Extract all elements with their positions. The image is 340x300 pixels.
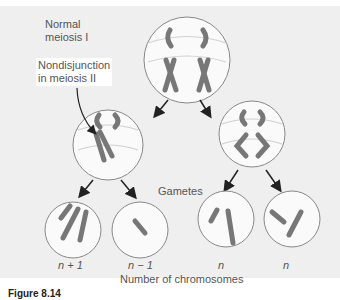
normal-daughter-cell bbox=[219, 101, 285, 167]
label-line: Normal bbox=[45, 18, 88, 31]
gamete-n-2 bbox=[264, 191, 320, 247]
arrow-icon bbox=[121, 180, 135, 197]
gamete-count-label: n + 1 bbox=[58, 259, 83, 272]
axis-title: Number of chromosomes bbox=[120, 273, 244, 286]
gamete-count-label: n bbox=[218, 259, 224, 272]
arrow-icon bbox=[266, 170, 280, 190]
label-line: in meiosis II bbox=[38, 72, 110, 85]
label-line: Nondisjunction bbox=[38, 59, 110, 72]
nondisjunction-cell bbox=[73, 110, 143, 180]
nondisjunction-diagram bbox=[0, 0, 340, 300]
parent-cell bbox=[144, 17, 230, 103]
label-line: meiosis I bbox=[45, 31, 88, 44]
gamete-count-label: n − 1 bbox=[128, 259, 153, 272]
label-normal-meiosis: Normal meiosis I bbox=[45, 18, 88, 44]
label-nondisjunction: Nondisjunction in meiosis II bbox=[36, 58, 112, 86]
gamete-n-plus-1 bbox=[45, 202, 101, 258]
gamete-n-1 bbox=[198, 191, 254, 247]
figure-caption: Figure 8.14 bbox=[8, 287, 188, 300]
gamete-n-minus-1 bbox=[112, 202, 168, 258]
label-gametes: Gametes bbox=[158, 185, 203, 198]
arrow-icon bbox=[80, 180, 93, 196]
arrow-icon bbox=[155, 100, 168, 116]
arrow-icon bbox=[200, 100, 210, 116]
gamete-count-label: n bbox=[283, 259, 289, 272]
arrow-icon bbox=[225, 170, 238, 190]
